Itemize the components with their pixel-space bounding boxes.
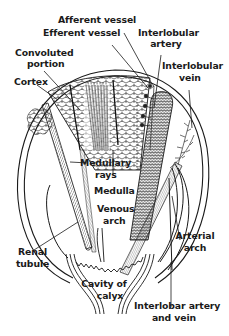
label-interlobar-2: and vein bbox=[134, 312, 214, 323]
venous-arch-lines bbox=[97, 228, 104, 262]
label-interlobular-vein-1: Interlobular bbox=[162, 60, 218, 71]
label-arterial-arch-2: arch bbox=[172, 242, 218, 253]
loop-curve bbox=[47, 185, 68, 258]
label-medulla: Medulla bbox=[94, 185, 135, 196]
label-interlobar-1: Interlobar artery bbox=[134, 300, 214, 311]
label-interlobular-vein-2: vein bbox=[162, 72, 218, 83]
label-arterial-arch-1: Arterial bbox=[172, 230, 218, 241]
label-medullary-rays-1: Medullary bbox=[80, 157, 131, 168]
label-medullary-rays-2: rays bbox=[95, 169, 117, 180]
label-cortex: Cortex bbox=[14, 76, 48, 87]
kidney-diagram: Afferent vessel Efferent vessel Interlob… bbox=[0, 0, 229, 336]
label-interlobular-artery-2: artery bbox=[138, 38, 194, 49]
label-convoluted-portion-1: Convoluted bbox=[15, 47, 74, 58]
label-convoluted-portion-2: portion bbox=[27, 58, 65, 69]
label-afferent-vessel: Afferent vessel bbox=[58, 14, 136, 25]
label-renal-tubule-2: tubule bbox=[16, 258, 49, 269]
interlobular-vein-branches bbox=[170, 120, 194, 168]
label-venous-arch-2: arch bbox=[103, 215, 126, 226]
label-efferent-vessel: Efferent vessel bbox=[43, 27, 120, 38]
label-venous-arch-1: Venous bbox=[97, 203, 135, 214]
label-cavity-of-calyx-1: Cavity of bbox=[80, 278, 128, 289]
label-renal-tubule-1: Renal bbox=[18, 246, 47, 257]
label-cavity-of-calyx-2: calyx bbox=[86, 290, 134, 301]
label-interlobular-artery-1: Interlobular bbox=[138, 27, 194, 38]
